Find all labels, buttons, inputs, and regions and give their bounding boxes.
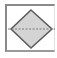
- diamond-shape-icon: [0, 0, 57, 58]
- diamond-icon: [11, 10, 52, 48]
